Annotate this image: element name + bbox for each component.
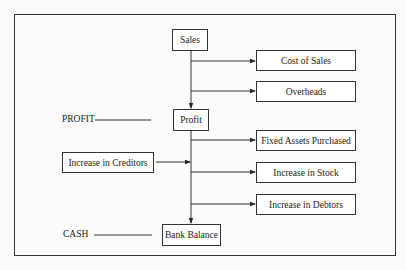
debtors-label: Increase in Debtors xyxy=(269,200,343,210)
stock-node: Increase in Stock xyxy=(256,162,356,183)
fixed-assets-label: Fixed Assets Purchased xyxy=(261,136,351,146)
overheads-label: Overheads xyxy=(286,87,327,97)
fixed-assets-node: Fixed Assets Purchased xyxy=(256,130,356,151)
sales-label: Sales xyxy=(180,35,200,45)
profit-label: Profit xyxy=(180,115,202,125)
bank-balance-node: Bank Balance xyxy=(162,224,221,246)
debtors-node: Increase in Debtors xyxy=(256,194,356,215)
overheads-node: Overheads xyxy=(256,81,356,102)
cost-of-sales-label: Cost of Sales xyxy=(281,56,331,66)
cash-side-label: CASH xyxy=(63,229,88,239)
profit-side-label: PROFIT xyxy=(62,114,95,124)
stock-label: Increase in Stock xyxy=(273,168,338,178)
cost-of-sales-node: Cost of Sales xyxy=(256,50,356,71)
sales-node: Sales xyxy=(172,29,208,51)
creditors-label: Increase in Creditors xyxy=(68,158,147,168)
creditors-node: Increase in Creditors xyxy=(62,152,154,173)
bank-balance-label: Bank Balance xyxy=(165,230,218,240)
profit-node: Profit xyxy=(173,109,209,131)
